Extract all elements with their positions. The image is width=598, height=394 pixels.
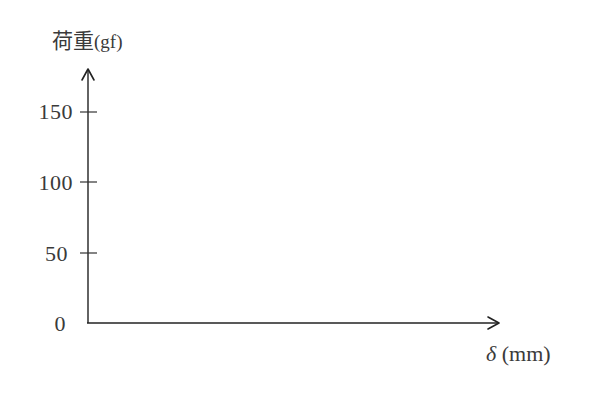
y-axis-title-name: 荷重	[52, 29, 94, 53]
x-axis-title-unit: (mm)	[496, 341, 550, 366]
x-axis-title-symbol: δ	[486, 341, 496, 366]
y-tick-label-100: 100	[13, 172, 73, 194]
y-tick-label-0: 0	[6, 313, 66, 335]
y-tick-label-150: 150	[13, 101, 73, 123]
chart-canvas	[0, 0, 598, 394]
x-axis-title: δ (mm)	[486, 343, 551, 365]
y-axis-title-unit: (gf)	[94, 31, 122, 52]
y-axis-title: 荷重(gf)	[52, 30, 122, 52]
y-tick-label-50: 50	[8, 243, 68, 265]
